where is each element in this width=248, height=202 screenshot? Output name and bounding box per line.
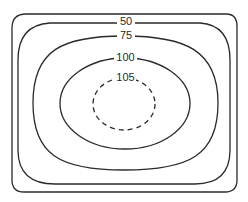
contour-diagram: 50 75 100 105 — [0, 0, 248, 202]
contour-label-50: 50 — [117, 15, 135, 28]
label-100-text: 100 — [116, 51, 134, 63]
label-50-text: 50 — [120, 15, 132, 27]
contour-line-50 — [18, 23, 230, 184]
contour-label-75: 75 — [117, 29, 135, 42]
contour-label-100: 100 — [114, 51, 137, 64]
label-75-text: 75 — [120, 29, 132, 41]
contour-label-105: 105 — [115, 71, 136, 84]
contour-line-105 — [93, 78, 155, 130]
label-105-text: 105 — [116, 71, 134, 83]
